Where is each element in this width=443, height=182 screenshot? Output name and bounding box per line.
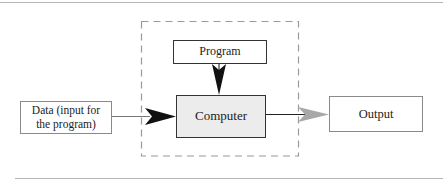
program-node: Program <box>173 40 267 64</box>
data-input-label: Data (input for the program) <box>24 104 108 130</box>
data-input-node: Data (input for the program) <box>20 101 112 134</box>
program-label: Program <box>199 45 240 59</box>
computer-node: Computer <box>176 95 266 138</box>
diagram-canvas <box>0 0 443 182</box>
output-node: Output <box>329 96 423 132</box>
output-label: Output <box>359 107 394 121</box>
computer-label: Computer <box>195 109 247 124</box>
